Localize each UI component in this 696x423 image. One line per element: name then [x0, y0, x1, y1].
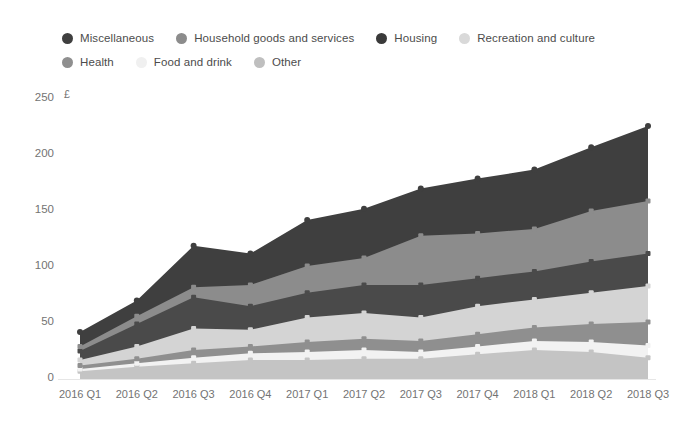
- data-point-marker[interactable]: [305, 357, 310, 362]
- y-axis-tick-label: 50: [14, 315, 54, 327]
- data-point-marker[interactable]: [645, 123, 651, 129]
- data-point-marker[interactable]: [646, 251, 651, 256]
- data-point-marker[interactable]: [305, 350, 310, 355]
- data-point-marker[interactable]: [191, 295, 196, 300]
- data-point-marker[interactable]: [361, 206, 367, 212]
- data-point-marker[interactable]: [134, 314, 139, 319]
- x-axis-tick-label: 2016 Q4: [229, 388, 271, 400]
- data-point-marker[interactable]: [589, 290, 594, 295]
- y-axis-tick-label: 200: [14, 147, 54, 159]
- stacked-area-chart: MiscellaneousHousehold goods and service…: [0, 0, 696, 423]
- x-axis-tick-label: 2016 Q3: [172, 388, 214, 400]
- x-axis-tick-label: 2018 Q1: [513, 388, 555, 400]
- data-point-marker[interactable]: [475, 344, 480, 349]
- x-axis-tick-label: 2017 Q2: [343, 388, 385, 400]
- data-point-marker[interactable]: [305, 263, 310, 268]
- y-axis-tick-label: 0: [14, 371, 54, 383]
- y-axis-tick-label: 150: [14, 203, 54, 215]
- data-point-marker[interactable]: [362, 256, 367, 261]
- data-point-marker[interactable]: [77, 329, 83, 335]
- data-point-marker[interactable]: [248, 282, 253, 287]
- data-point-marker[interactable]: [191, 243, 197, 249]
- data-point-marker[interactable]: [134, 361, 139, 366]
- data-point-marker[interactable]: [248, 327, 253, 332]
- data-point-marker[interactable]: [475, 304, 480, 309]
- data-point-marker[interactable]: [191, 285, 196, 290]
- data-point-marker[interactable]: [418, 356, 423, 361]
- data-point-marker[interactable]: [531, 167, 537, 173]
- data-point-marker[interactable]: [418, 186, 424, 192]
- data-point-marker[interactable]: [191, 361, 196, 366]
- data-point-marker[interactable]: [418, 338, 423, 343]
- data-point-marker[interactable]: [78, 344, 83, 349]
- data-point-marker[interactable]: [589, 350, 594, 355]
- data-point-marker[interactable]: [418, 315, 423, 320]
- data-point-marker[interactable]: [191, 326, 196, 331]
- data-point-marker[interactable]: [134, 344, 139, 349]
- data-point-marker[interactable]: [305, 315, 310, 320]
- data-point-marker[interactable]: [532, 338, 537, 343]
- x-axis-tick-label: 2017 Q1: [286, 388, 328, 400]
- data-point-marker[interactable]: [305, 340, 310, 345]
- data-point-marker[interactable]: [362, 347, 367, 352]
- data-point-marker[interactable]: [532, 297, 537, 302]
- data-point-marker[interactable]: [305, 290, 310, 295]
- data-point-marker[interactable]: [532, 347, 537, 352]
- x-axis-tick-label: 2016 Q1: [59, 388, 101, 400]
- data-point-marker[interactable]: [475, 352, 480, 357]
- plot-area: [0, 0, 696, 423]
- data-point-marker[interactable]: [134, 298, 140, 304]
- data-point-marker[interactable]: [475, 276, 480, 281]
- data-point-marker[interactable]: [248, 344, 253, 349]
- data-point-marker[interactable]: [646, 355, 651, 360]
- data-point-marker[interactable]: [589, 322, 594, 327]
- x-axis-tick-label: 2017 Q4: [456, 388, 498, 400]
- data-point-marker[interactable]: [646, 319, 651, 324]
- data-point-marker[interactable]: [191, 355, 196, 360]
- data-point-marker[interactable]: [362, 336, 367, 341]
- data-point-marker[interactable]: [78, 349, 83, 354]
- data-point-marker[interactable]: [248, 351, 253, 356]
- data-point-marker[interactable]: [247, 251, 253, 257]
- data-point-marker[interactable]: [78, 357, 83, 362]
- x-axis-tick-label: 2018 Q3: [627, 388, 669, 400]
- data-point-marker[interactable]: [248, 357, 253, 362]
- data-point-marker[interactable]: [532, 269, 537, 274]
- plot-svg: [0, 0, 696, 423]
- data-point-marker[interactable]: [475, 176, 481, 182]
- data-point-marker[interactable]: [134, 322, 139, 327]
- data-point-marker[interactable]: [191, 347, 196, 352]
- data-point-marker[interactable]: [646, 198, 651, 203]
- data-point-marker[interactable]: [248, 304, 253, 309]
- data-point-marker[interactable]: [532, 226, 537, 231]
- data-point-marker[interactable]: [362, 356, 367, 361]
- data-point-marker[interactable]: [418, 282, 423, 287]
- data-point-marker[interactable]: [362, 282, 367, 287]
- data-point-marker[interactable]: [362, 310, 367, 315]
- data-point-marker[interactable]: [588, 144, 594, 150]
- data-point-marker[interactable]: [646, 284, 651, 289]
- data-point-marker[interactable]: [589, 209, 594, 214]
- data-point-marker[interactable]: [475, 332, 480, 337]
- data-point-marker[interactable]: [304, 217, 310, 223]
- data-point-marker[interactable]: [646, 343, 651, 348]
- data-point-marker[interactable]: [589, 259, 594, 264]
- data-point-marker[interactable]: [532, 325, 537, 330]
- data-point-marker[interactable]: [589, 340, 594, 345]
- x-axis-tick-label: 2016 Q2: [116, 388, 158, 400]
- data-point-marker[interactable]: [418, 350, 423, 355]
- data-point-marker[interactable]: [418, 233, 423, 238]
- data-point-marker[interactable]: [78, 363, 83, 368]
- x-axis-tick-label: 2017 Q3: [400, 388, 442, 400]
- data-point-marker[interactable]: [475, 231, 480, 236]
- data-point-marker[interactable]: [134, 356, 139, 361]
- y-axis-tick-label: 100: [14, 259, 54, 271]
- x-axis-tick-label: 2018 Q2: [570, 388, 612, 400]
- y-axis-tick-label: 250: [14, 91, 54, 103]
